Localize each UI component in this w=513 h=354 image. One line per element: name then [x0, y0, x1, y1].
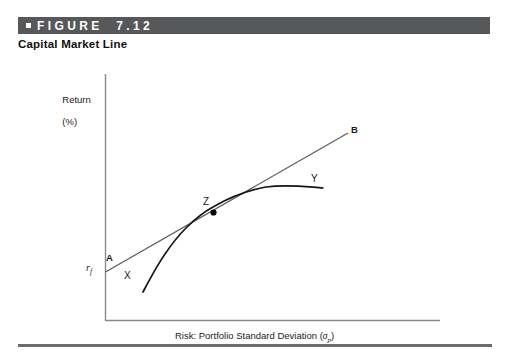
rf-subscript: f [90, 267, 92, 276]
risk-free-rate-label: rf [86, 262, 92, 276]
tangency-point-marker [210, 209, 216, 215]
y-axis-title: Return (%) [57, 83, 91, 127]
y-axis-title-line1: Return [62, 94, 91, 105]
capital-market-line [106, 133, 349, 272]
point-label-a: A [106, 252, 113, 263]
point-label-y: Y [311, 173, 318, 184]
chart-canvas [0, 0, 513, 354]
x-axis-title-suffix: ) [331, 330, 334, 341]
x-axis-title-text: Risk: Portfolio Standard Deviation ( [175, 330, 323, 341]
point-label-z: Z [203, 196, 209, 207]
point-label-x: X [124, 270, 131, 281]
y-axis-title-line2: (%) [62, 116, 77, 127]
efficient-frontier-curve [143, 186, 323, 292]
bottom-divider [18, 344, 492, 347]
point-label-b: B [351, 124, 358, 135]
sigma-icon: σp [323, 331, 331, 341]
